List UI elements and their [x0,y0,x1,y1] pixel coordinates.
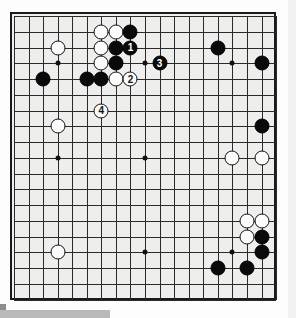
star-point [55,61,60,66]
stone-black[interactable] [210,261,225,276]
go-board[interactable]: 1234 [10,12,276,300]
stone-black[interactable] [123,24,138,39]
star-point [143,61,148,66]
grid-line-horizontal [14,174,276,175]
stone-white[interactable] [239,213,254,228]
stone-white[interactable] [94,40,109,55]
stone-black[interactable] [108,56,123,71]
grid-line-vertical [276,16,277,300]
star-point [143,155,148,160]
grid-line-horizontal [14,95,276,96]
stone-white[interactable] [239,229,254,244]
stone-black[interactable] [254,245,269,260]
star-point [143,250,148,255]
move-stone-3[interactable]: 3 [152,56,167,71]
stone-white[interactable] [50,119,65,134]
grid-line-horizontal [14,221,276,222]
grid-line-horizontal [14,142,276,143]
go-diagram-container: 1234 [0,0,296,318]
page-edge-shadow [288,0,296,318]
stone-black[interactable] [108,40,123,55]
stone-black[interactable] [79,72,94,87]
move-stone-2[interactable]: 2 [123,72,138,87]
stone-white[interactable] [94,24,109,39]
grid-line-horizontal [14,32,276,33]
stone-white[interactable] [254,150,269,165]
stone-white[interactable] [254,213,269,228]
stone-black[interactable] [254,56,269,71]
grid-line-horizontal [14,284,276,285]
stone-white[interactable] [225,150,240,165]
stone-white[interactable] [108,72,123,87]
grid-line-horizontal [14,111,276,112]
grid-line-horizontal [14,16,276,17]
stone-white[interactable] [108,24,123,39]
move-stone-1[interactable]: 1 [123,40,138,55]
grid-line-horizontal [14,79,276,80]
star-point [230,250,235,255]
stone-black[interactable] [239,261,254,276]
grid-line-horizontal [14,205,276,206]
stone-black[interactable] [94,72,109,87]
grid-line-horizontal [14,189,276,190]
stone-white[interactable] [94,56,109,71]
grid-line-horizontal [14,300,276,301]
star-point [55,155,60,160]
star-point [230,61,235,66]
stone-white[interactable] [50,40,65,55]
stone-white[interactable] [50,245,65,260]
grid-line-horizontal [14,268,276,269]
bottom-edge-bar [0,310,110,318]
move-stone-4[interactable]: 4 [94,103,109,118]
grid-line-horizontal [14,237,276,238]
stone-black[interactable] [210,40,225,55]
stone-black[interactable] [36,72,51,87]
stone-black[interactable] [254,119,269,134]
stone-black[interactable] [254,229,269,244]
